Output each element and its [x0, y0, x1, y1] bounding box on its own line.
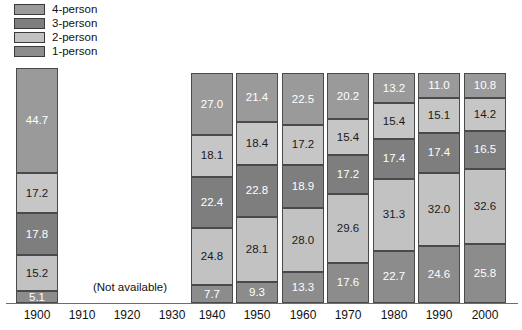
bar-segment[interactable]: 16.5	[464, 131, 506, 169]
bar-segment[interactable]: 15.1	[418, 98, 460, 133]
bar-segment-value-label: 22.5	[292, 94, 314, 105]
stacked-bar[interactable]: 7.724.822.418.127.0	[191, 73, 233, 303]
bar-segment[interactable]: 17.4	[418, 133, 460, 173]
bar-segment-value-label: 10.8	[474, 80, 496, 91]
bar-segment[interactable]: 17.2	[327, 155, 369, 195]
bar-segment[interactable]: 25.8	[464, 244, 506, 303]
bar-segment[interactable]: 18.1	[191, 135, 233, 177]
bar-segment-value-label: 14.2	[474, 109, 496, 120]
stacked-bar[interactable]: 25.832.616.514.210.8	[464, 73, 506, 303]
bar-segment[interactable]: 18.4	[236, 122, 278, 164]
bar-segment-value-label: 24.8	[201, 251, 223, 262]
bar-segment[interactable]: 21.4	[236, 73, 278, 122]
x-axis-tick-label: 1920	[105, 308, 149, 322]
bar-segment[interactable]: 13.2	[373, 73, 415, 103]
stacked-bar[interactable]: 17.629.617.215.420.2	[327, 73, 369, 303]
bar-segment[interactable]: 7.7	[191, 285, 233, 303]
bar-segment-value-label: 18.9	[292, 181, 314, 192]
chart-plot-area: (Not available) 5.115.217.817.244.77.724…	[0, 0, 522, 330]
not-available-annotation: (Not available)	[72, 281, 188, 293]
bar-segment[interactable]: 28.0	[282, 208, 324, 272]
bar-segment[interactable]: 17.8	[16, 213, 58, 255]
bar-segment-value-label: 18.1	[201, 150, 223, 161]
x-axis-tick-label: 1990	[417, 308, 461, 322]
bar-segment-value-label: 15.2	[26, 268, 48, 279]
x-axis-tick-label: 1970	[326, 308, 370, 322]
bar-segment[interactable]: 18.9	[282, 165, 324, 208]
bar-segment-value-label: 7.7	[204, 289, 220, 300]
bar-segment-value-label: 11.0	[428, 80, 450, 91]
bar-segment-value-label: 22.4	[201, 197, 223, 208]
stacked-bar[interactable]: 9.328.122.818.421.4	[236, 73, 278, 303]
bar-segment[interactable]: 10.8	[464, 73, 506, 98]
x-axis-tick-label: 2000	[463, 308, 507, 322]
bar-segment-value-label: 44.7	[26, 115, 48, 126]
bar-segment-value-label: 17.2	[26, 188, 48, 199]
bar-segment-value-label: 17.2	[292, 139, 314, 150]
bar-segment-value-label: 13.2	[383, 83, 405, 94]
bar-segment-value-label: 22.7	[383, 271, 405, 282]
bar-segment-value-label: 15.1	[428, 110, 450, 121]
bar-segment[interactable]: 15.2	[16, 255, 58, 291]
bar-segment[interactable]: 27.0	[191, 73, 233, 135]
bar-segment[interactable]: 22.4	[191, 177, 233, 229]
bar-segment-value-label: 15.4	[337, 132, 359, 143]
bar-segment[interactable]: 15.4	[327, 119, 369, 154]
bar-segment-value-label: 16.5	[474, 144, 496, 155]
bar-segment-value-label: 32.6	[474, 201, 496, 212]
bar-segment-value-label: 20.2	[337, 91, 359, 102]
bar-segment[interactable]: 17.6	[327, 263, 369, 303]
bar-segment[interactable]: 5.1	[16, 291, 58, 303]
bar-segment[interactable]: 17.4	[373, 139, 415, 179]
stacked-bar[interactable]: 24.632.017.415.111.0	[418, 73, 460, 303]
bar-segment[interactable]: 20.2	[327, 73, 369, 119]
bar-segment-value-label: 25.8	[474, 268, 496, 279]
x-axis-line	[6, 303, 518, 304]
bar-segment-value-label: 18.4	[246, 138, 268, 149]
bar-segment-value-label: 28.0	[292, 235, 314, 246]
bar-segment-value-label: 13.3	[292, 282, 314, 293]
bar-segment[interactable]: 24.8	[191, 228, 233, 285]
x-axis-tick-label: 1950	[235, 308, 279, 322]
stacked-bar[interactable]: 13.328.018.917.222.5	[282, 73, 324, 303]
bar-segment[interactable]: 28.1	[236, 217, 278, 282]
bar-segment[interactable]: 15.4	[373, 103, 415, 138]
x-axis-tick-label: 1940	[190, 308, 234, 322]
bar-segment[interactable]: 29.6	[327, 194, 369, 262]
x-axis-tick-label: 1900	[15, 308, 59, 322]
stacked-bar[interactable]: 22.731.317.415.413.2	[373, 73, 415, 303]
bar-segment-value-label: 15.4	[383, 116, 405, 127]
bar-segment-value-label: 24.6	[428, 269, 450, 280]
bar-segment[interactable]: 17.2	[16, 173, 58, 213]
stacked-bar[interactable]: 5.115.217.817.244.7	[16, 68, 58, 303]
bar-segment[interactable]: 11.0	[418, 73, 460, 98]
bar-segment[interactable]: 32.6	[464, 169, 506, 244]
bar-segment[interactable]: 44.7	[16, 68, 58, 173]
bar-segment-value-label: 17.2	[337, 169, 359, 180]
x-axis-tick-label: 1910	[60, 308, 104, 322]
bar-segment-value-label: 22.8	[246, 185, 268, 196]
bar-segment[interactable]: 13.3	[282, 272, 324, 303]
x-axis-tick-label: 1930	[150, 308, 194, 322]
bar-segment-value-label: 5.1	[29, 292, 45, 303]
bar-segment[interactable]: 17.2	[282, 125, 324, 165]
bar-segment[interactable]: 22.8	[236, 165, 278, 217]
x-axis-tick-label: 1960	[281, 308, 325, 322]
bar-segment-value-label: 29.6	[337, 223, 359, 234]
bar-segment-value-label: 17.8	[26, 229, 48, 240]
bar-segment-value-label: 17.6	[337, 277, 359, 288]
bar-segment-value-label: 17.4	[383, 153, 405, 164]
bar-segment-value-label: 32.0	[428, 204, 450, 215]
bar-segment-value-label: 17.4	[428, 147, 450, 158]
bar-segment-value-label: 28.1	[246, 244, 268, 255]
bar-segment-value-label: 9.3	[249, 287, 265, 298]
bar-segment-value-label: 21.4	[246, 92, 268, 103]
bar-segment[interactable]: 22.5	[282, 73, 324, 125]
bar-segment[interactable]: 31.3	[373, 179, 415, 251]
bar-segment[interactable]: 24.6	[418, 246, 460, 303]
bar-segment[interactable]: 32.0	[418, 173, 460, 247]
bar-segment[interactable]: 14.2	[464, 98, 506, 131]
bar-segment-value-label: 31.3	[383, 209, 405, 220]
bar-segment[interactable]: 22.7	[373, 251, 415, 303]
bar-segment[interactable]: 9.3	[236, 282, 278, 303]
